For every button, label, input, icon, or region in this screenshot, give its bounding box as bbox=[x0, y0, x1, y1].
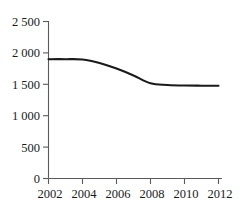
y-tick-label-2000: 2 000 bbox=[12, 46, 40, 60]
y-tick-label-1500: 1 500 bbox=[12, 78, 40, 92]
x-axis-tick-labels: 2002 2004 2006 2008 2010 2012 bbox=[38, 187, 233, 201]
x-tick-label-2010: 2010 bbox=[174, 187, 199, 201]
x-tick-label-2002: 2002 bbox=[38, 187, 63, 201]
x-tick-label-2008: 2008 bbox=[140, 187, 165, 201]
x-tick-label-2004: 2004 bbox=[72, 187, 98, 201]
x-tick-label-2012: 2012 bbox=[208, 187, 233, 201]
chart-canvas: 2 500 2 000 1 500 1 000 500 0 2002 2004 … bbox=[0, 0, 246, 206]
x-axis-ticks bbox=[49, 179, 219, 185]
y-tick-label-2500: 2 500 bbox=[12, 15, 40, 29]
x-tick-label-2006: 2006 bbox=[106, 187, 131, 201]
y-axis-tick-labels: 2 500 2 000 1 500 1 000 500 0 bbox=[12, 15, 40, 186]
y-tick-label-500: 500 bbox=[21, 141, 40, 155]
line-chart: 2 500 2 000 1 500 1 000 500 0 2002 2004 … bbox=[0, 0, 246, 206]
data-line-series bbox=[49, 59, 219, 86]
y-axis-ticks bbox=[43, 22, 49, 179]
y-tick-label-1000: 1 000 bbox=[12, 109, 40, 123]
y-tick-label-0: 0 bbox=[34, 172, 40, 186]
